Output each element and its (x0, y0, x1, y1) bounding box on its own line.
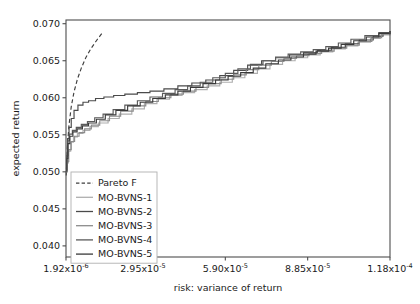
legend-label-pareto-f: Pareto F (98, 177, 137, 188)
legend-label-mo-bvns-3: MO-BVNS-3 (98, 220, 152, 231)
legend-label-mo-bvns-5: MO-BVNS-5 (98, 248, 152, 259)
y-tick-label: 0.060 (33, 92, 60, 103)
legend-label-mo-bvns-1: MO-BVNS-1 (98, 192, 152, 203)
x-tick-label: 1.18x10-4 (367, 262, 412, 274)
pareto-front-chart: 0.0400.0450.0500.0550.0600.0650.070expec… (0, 0, 420, 304)
y-tick-label: 0.050 (33, 166, 60, 177)
y-axis-title: expected return (10, 100, 21, 176)
legend-label-mo-bvns-2: MO-BVNS-2 (98, 206, 152, 217)
x-tick-label: 2.95x10-5 (120, 262, 165, 274)
x-axis-title: risk: variance of return (174, 282, 282, 293)
legend-label-mo-bvns-4: MO-BVNS-4 (98, 234, 152, 245)
y-tick-label: 0.065 (33, 55, 60, 66)
x-tick-label: 8.85x10-5 (285, 262, 330, 274)
x-tick-label: 1.92x10-6 (43, 262, 88, 274)
figure-container: 0.0400.0450.0500.0550.0600.0650.070expec… (0, 0, 420, 304)
x-tick-label: 5.90x10-5 (203, 262, 248, 274)
legend: Pareto FMO-BVNS-1MO-BVNS-2MO-BVNS-3MO-BV… (71, 172, 157, 263)
y-tick-label: 0.055 (33, 129, 60, 140)
y-tick-label: 0.045 (33, 203, 60, 214)
y-tick-label: 0.040 (33, 240, 60, 251)
y-tick-label: 0.070 (33, 18, 60, 29)
